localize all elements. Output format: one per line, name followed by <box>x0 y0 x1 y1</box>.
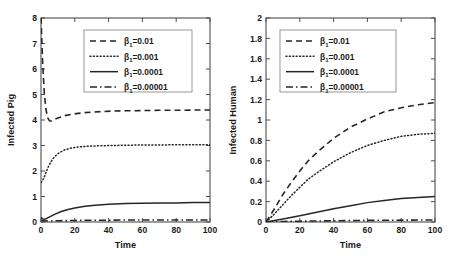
x-tick-label: 20 <box>70 225 80 235</box>
x-tick-label: 100 <box>428 225 443 235</box>
x-tick-label: 0 <box>264 225 269 235</box>
legend-label: β1=0.01 <box>320 36 350 48</box>
y-tick-label: 0 <box>257 217 262 227</box>
x-axis-title: Time <box>115 240 136 250</box>
series-line-2 <box>266 197 435 223</box>
y-tick-label: 2 <box>32 166 37 176</box>
x-tick-label: 40 <box>104 225 114 235</box>
series-line-1 <box>266 133 435 222</box>
x-tick-label: 0 <box>39 225 44 235</box>
chart-panel-infected-human: 02040608010000.20.40.60.811.21.41.61.82T… <box>225 0 449 268</box>
y-tick-label: 4 <box>32 115 37 125</box>
y-tick-label: 0.6 <box>250 156 262 166</box>
legend: β1=0.01β1=0.001β1=0.0001β1=0.00001 <box>280 30 396 94</box>
x-tick-label: 60 <box>138 225 148 235</box>
y-axis-title: Infected Pig <box>6 94 16 146</box>
x-tick-label: 80 <box>396 225 406 235</box>
y-tick-label: 6 <box>32 64 37 74</box>
y-tick-label: 1.6 <box>250 54 262 64</box>
y-tick-label: 8 <box>32 13 37 23</box>
y-tick-label: 3 <box>32 141 37 151</box>
figure-canvas: 020406080100012345678TimeInfected Pigβ1=… <box>0 0 449 268</box>
y-tick-label: 2 <box>257 13 262 23</box>
chart-svg-left: 020406080100012345678TimeInfected Pigβ1=… <box>0 0 224 268</box>
y-tick-label: 1 <box>32 192 37 202</box>
x-tick-label: 60 <box>363 225 373 235</box>
y-tick-label: 0.8 <box>250 136 262 146</box>
x-tick-label: 80 <box>171 225 181 235</box>
x-tick-labels: 020406080100 <box>264 225 443 235</box>
y-tick-label: 1 <box>257 115 262 125</box>
x-tick-label: 40 <box>329 225 339 235</box>
y-tick-label: 0.2 <box>250 197 262 207</box>
y-tick-label: 5 <box>32 90 37 100</box>
legend-label: β1=0.01 <box>124 36 154 48</box>
series-line-3 <box>41 220 210 221</box>
y-tick-labels: 012345678 <box>32 13 37 227</box>
series-line-2 <box>41 203 210 220</box>
legend: β1=0.01β1=0.001β1=0.0001β1=0.00001 <box>84 30 192 94</box>
x-axis-title: Time <box>340 240 361 250</box>
x-tick-labels: 020406080100 <box>39 225 218 235</box>
x-tick-label: 100 <box>203 225 218 235</box>
y-tick-label: 1.2 <box>250 95 262 105</box>
y-tick-label: 7 <box>32 39 37 49</box>
series-line-0 <box>266 103 435 222</box>
y-tick-label: 1.8 <box>250 34 262 44</box>
y-tick-label: 1.4 <box>250 74 262 84</box>
y-tick-label: 0 <box>32 217 37 227</box>
series-group <box>266 103 435 222</box>
chart-svg-right: 02040608010000.20.40.60.811.21.41.61.82T… <box>225 0 449 268</box>
series-line-1 <box>41 145 210 183</box>
y-tick-label: 0.4 <box>250 176 262 186</box>
chart-panel-infected-pig: 020406080100012345678TimeInfected Pigβ1=… <box>0 0 224 268</box>
x-tick-label: 20 <box>295 225 305 235</box>
y-axis-title: Infected Human <box>228 85 238 154</box>
y-tick-labels: 00.20.40.60.811.21.41.61.82 <box>250 13 262 227</box>
